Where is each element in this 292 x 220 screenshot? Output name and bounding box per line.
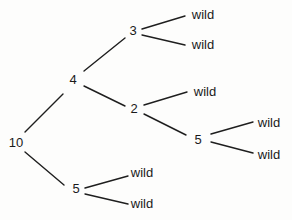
edge-10-4 xyxy=(25,94,63,132)
edge-4-2 xyxy=(84,86,125,106)
edge-5b-wild xyxy=(85,194,128,204)
leaf-wild: wild xyxy=(192,38,214,51)
node-3: 3 xyxy=(129,24,136,37)
leaf-wild: wild xyxy=(258,116,280,129)
edge-4-3 xyxy=(84,38,125,71)
node-4: 4 xyxy=(69,73,76,86)
leaf-wild: wild xyxy=(258,148,280,161)
node-5-upper: 5 xyxy=(194,133,201,146)
leaf-wild: wild xyxy=(131,166,153,179)
edge-5b-wild xyxy=(85,176,128,188)
edge-5-wild xyxy=(211,122,253,134)
edge-3-wild xyxy=(142,35,185,45)
edge-2-wild xyxy=(144,92,187,105)
node-10: 10 xyxy=(9,136,23,149)
leaf-wild: wild xyxy=(194,85,216,98)
edge-5-wild xyxy=(211,142,253,153)
edge-3-wild xyxy=(142,16,185,29)
leaf-wild: wild xyxy=(131,197,153,210)
tree-edges xyxy=(0,0,292,220)
leaf-wild: wild xyxy=(192,8,214,21)
node-5-lower: 5 xyxy=(72,182,79,195)
node-2: 2 xyxy=(130,102,137,115)
edge-10-5 xyxy=(25,152,64,185)
edge-2-5 xyxy=(144,114,186,135)
